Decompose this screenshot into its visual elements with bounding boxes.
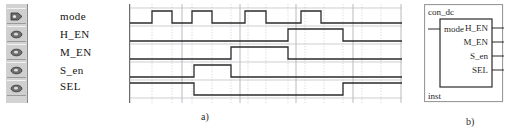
signal-name-sel[interactable]: SEL (60, 80, 81, 92)
signal-output-icon (10, 66, 23, 75)
signal-icon-cell[interactable] (7, 26, 26, 42)
waveform-svg (130, 4, 402, 103)
caption-a: a) (201, 111, 209, 122)
signal-name-m-en[interactable]: M_EN (60, 46, 92, 58)
signal-icon-cell[interactable] (7, 62, 26, 78)
figure-root: mode H_EN M_EN S_en SEL (0, 0, 518, 139)
signal-output-icon (10, 84, 23, 93)
signal-output-icon (10, 30, 23, 39)
block-symbol-svg: con_dc inst mode H_EN M_EN S_en SEL (424, 4, 508, 103)
port-label-s-en: S_en (470, 51, 489, 61)
port-label-h-en: H_EN (465, 23, 488, 33)
block-symbol-diagram[interactable]: con_dc inst mode H_EN M_EN S_en SEL (424, 4, 508, 103)
entity-label: con_dc (428, 7, 454, 17)
waveform-canvas[interactable] (130, 4, 402, 103)
signal-icon-cell[interactable] (7, 44, 26, 60)
signal-name-s-en[interactable]: S_en (60, 64, 84, 76)
signal-output-icon (10, 48, 23, 57)
port-label-mode: mode (444, 24, 464, 34)
signal-icon-cell[interactable] (7, 80, 26, 96)
waveform-viewer: mode H_EN M_EN S_en SEL (6, 4, 402, 103)
port-label-sel: SEL (472, 65, 488, 75)
signal-input-icon (10, 12, 23, 21)
signal-name-column: mode H_EN M_EN S_en SEL (28, 4, 130, 103)
port-label-m-en: M_EN (464, 37, 489, 47)
instance-label: inst (428, 91, 442, 101)
signal-icon-cell[interactable] (7, 8, 26, 24)
signal-icon-gutter (6, 4, 28, 103)
signal-name-mode[interactable]: mode (60, 10, 86, 22)
signal-name-h-en[interactable]: H_EN (60, 28, 90, 40)
caption-b: b) (466, 116, 474, 127)
